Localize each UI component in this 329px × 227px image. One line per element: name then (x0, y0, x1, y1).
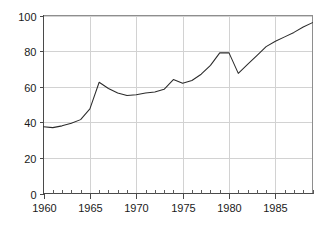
y-tick-label-40: 40 (24, 117, 36, 129)
line-chart: 020406080100 196019651970197519801985 (0, 0, 329, 227)
y-tick-label-80: 80 (24, 46, 36, 58)
x-tick-label-1980: 1980 (217, 202, 241, 214)
x-tick-label-1965: 1965 (78, 202, 102, 214)
x-tick-label-1960: 1960 (32, 202, 56, 214)
y-tick-label-60: 60 (24, 82, 36, 94)
chart-container: 020406080100 196019651970197519801985 (0, 0, 329, 227)
x-tick-label-1985: 1985 (263, 202, 287, 214)
y-tick-label-100: 100 (18, 11, 36, 23)
y-tick-label-0: 0 (30, 189, 36, 201)
x-tick-label-1970: 1970 (124, 202, 148, 214)
x-tick-label-1975: 1975 (171, 202, 195, 214)
y-tick-label-20: 20 (24, 153, 36, 165)
